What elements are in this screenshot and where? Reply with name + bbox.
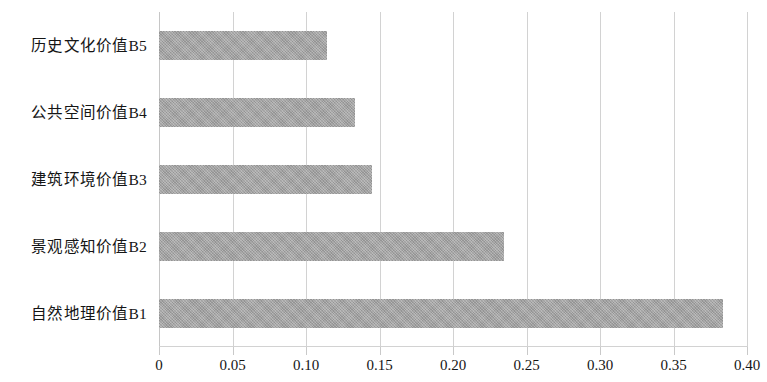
gridline-0.30 — [600, 12, 601, 347]
bar-chart: 历史文化价值B5 公共空间价值B4 建筑环境价值B3 景观感知价值B2 自然地理… — [0, 0, 767, 382]
gridline-0.15 — [380, 12, 381, 347]
tick-mark-0.10 — [306, 347, 307, 355]
category-label-b3: 建筑环境价值B3 — [31, 169, 147, 191]
gridline-0.40 — [747, 12, 748, 347]
tick-mark-0.20 — [453, 347, 454, 355]
category-label-b4: 公共空间价值B4 — [31, 102, 147, 124]
bar-B1 — [159, 299, 723, 328]
tick-label-0: 0 — [129, 357, 189, 374]
tick-label-0.20: 0.20 — [423, 357, 483, 374]
bar-B3 — [159, 165, 372, 194]
tick-mark-0.30 — [600, 347, 601, 355]
tick-mark-0.25 — [527, 347, 528, 355]
bar-B2 — [159, 232, 504, 261]
gridline-0.20 — [453, 12, 454, 347]
tick-mark-0.35 — [674, 347, 675, 355]
tick-label-0.35: 0.35 — [644, 357, 704, 374]
tick-label-0.05: 0.05 — [203, 357, 263, 374]
tick-label-0.15: 0.15 — [350, 357, 410, 374]
category-label-b5: 历史文化价值B5 — [31, 35, 147, 57]
tick-mark-0.05 — [233, 347, 234, 355]
gridline-0.35 — [674, 12, 675, 347]
gridline-0.25 — [527, 12, 528, 347]
category-label-b1: 自然地理价值B1 — [31, 303, 147, 325]
tick-label-0.25: 0.25 — [497, 357, 557, 374]
tick-mark-0.15 — [380, 347, 381, 355]
tick-mark-0.40 — [747, 347, 748, 355]
plot-area — [159, 12, 747, 347]
tick-label-0.40: 0.40 — [717, 357, 767, 374]
bar-B5 — [159, 31, 327, 60]
tick-label-0.10: 0.10 — [276, 357, 336, 374]
value-axis: 00.050.100.150.200.250.300.350.40 — [159, 347, 747, 382]
bar-B4 — [159, 98, 355, 127]
category-label-b2: 景观感知价值B2 — [31, 236, 147, 258]
tick-mark-0 — [159, 347, 160, 355]
category-axis: 历史文化价值B5 公共空间价值B4 建筑环境价值B3 景观感知价值B2 自然地理… — [0, 0, 155, 347]
tick-label-0.30: 0.30 — [570, 357, 630, 374]
